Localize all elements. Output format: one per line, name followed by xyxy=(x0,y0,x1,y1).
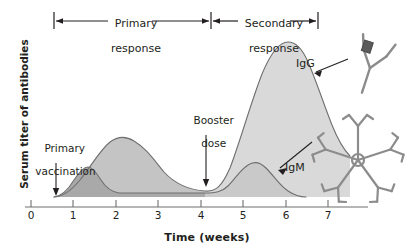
x-tick-7: 7 xyxy=(318,210,338,222)
secondary-response-line1: Secondary xyxy=(245,17,303,30)
x-tick-5: 5 xyxy=(233,210,253,222)
x-axis-title: Time (weeks) xyxy=(0,232,414,244)
antibody-titer-chart: Primary response Secondary response Prim… xyxy=(0,0,414,252)
x-tick-3: 3 xyxy=(148,210,168,222)
x-tick-6: 6 xyxy=(276,210,296,222)
primary-vaccination-line1: Primary xyxy=(44,142,85,154)
igg-monomer-icon xyxy=(346,34,396,98)
primary-response-bracket-label: Primary response xyxy=(92,6,166,68)
igm-series-label: IgM xyxy=(285,162,305,174)
y-axis-title: Serum titer of antibodies xyxy=(18,34,30,194)
x-tick-1: 1 xyxy=(63,210,83,222)
booster-dose-line2: dose xyxy=(201,137,226,149)
x-axis xyxy=(25,200,368,207)
booster-dose-annotation: Booster dose xyxy=(176,103,238,162)
secondary-response-line2: response xyxy=(249,42,299,55)
x-tick-2: 2 xyxy=(106,210,126,222)
igg-series-label: IgG xyxy=(296,58,315,70)
booster-dose-line1: Booster xyxy=(193,114,233,126)
x-tick-4: 4 xyxy=(191,210,211,222)
primary-vaccination-annotation: Primary vaccination xyxy=(22,131,94,190)
x-tick-0: 0 xyxy=(21,210,41,222)
primary-vaccination-line2: vaccination xyxy=(35,165,95,177)
secondary-response-bracket-label: Secondary response xyxy=(228,6,306,68)
primary-response-line1: Primary xyxy=(115,17,158,30)
primary-response-line2: response xyxy=(111,42,161,55)
